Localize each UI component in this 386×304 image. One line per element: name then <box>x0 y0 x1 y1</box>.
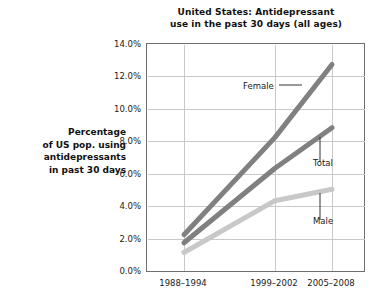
y-tick-label: 0.0% <box>101 266 141 276</box>
y-tick-label: 8.0% <box>101 136 141 146</box>
y-tick-label: 4.0% <box>101 201 141 211</box>
y-axis-caption-line-3: antidepressants <box>6 151 126 164</box>
chart-title-line-1: United States: Antidepressant <box>146 6 366 18</box>
plot-canvas <box>147 44 366 273</box>
chart-figure: United States: Antidepressant use in the… <box>0 0 386 304</box>
y-tick-label: 6.0% <box>101 169 141 179</box>
series-line-total <box>184 128 332 243</box>
x-tick-label: 2005–2008 <box>293 278 369 288</box>
series-line-male <box>184 189 332 252</box>
y-tick-label: 14.0% <box>101 39 141 49</box>
chart-title: United States: Antidepressant use in the… <box>146 6 366 30</box>
x-tick-label: 1988–1994 <box>145 278 221 288</box>
y-tick-label: 10.0% <box>101 104 141 114</box>
y-tick-label: 2.0% <box>101 234 141 244</box>
series-label-total: Total <box>313 158 333 168</box>
chart-title-line-2: use in the past 30 days (all ages) <box>146 18 366 30</box>
series-label-male: Male <box>313 216 333 226</box>
y-tick-label: 12.0% <box>101 71 141 81</box>
series-label-female: Female <box>243 81 274 91</box>
